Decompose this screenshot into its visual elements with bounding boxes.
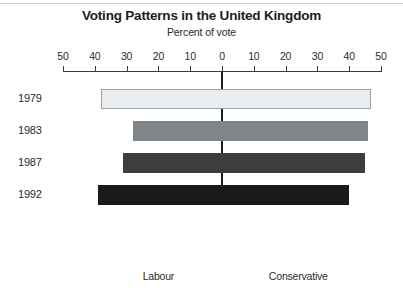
bar-1987 — [123, 153, 365, 173]
x-axis-tick-mark — [158, 66, 159, 72]
x-axis-tick-mark — [190, 66, 191, 72]
x-axis-tick-label: 20 — [271, 50, 301, 62]
x-axis-tick-label: 10 — [175, 50, 205, 62]
bar-1983 — [133, 121, 368, 141]
x-axis-tick-label: 10 — [239, 50, 269, 62]
year-label-1992: 1992 — [18, 188, 64, 200]
x-axis-tick-label: 0 — [207, 50, 237, 62]
x-axis-tick-mark — [286, 66, 287, 72]
x-axis-tick-label: 30 — [302, 50, 332, 62]
year-label-1979: 1979 — [18, 92, 64, 104]
year-label-1983: 1983 — [18, 124, 64, 136]
x-axis-tick-mark — [381, 66, 382, 72]
x-axis-tick-mark — [127, 66, 128, 72]
party-label-conservative: Conservative — [233, 270, 363, 282]
x-axis-tick-label: 50 — [366, 50, 396, 62]
chart-figure: Voting Patterns in the United Kingdom Pe… — [0, 0, 403, 297]
party-label-labour: Labour — [93, 270, 223, 282]
x-axis-tick-label: 50 — [48, 50, 78, 62]
x-axis-tick-label: 30 — [112, 50, 142, 62]
year-label-1987: 1987 — [18, 156, 64, 168]
x-axis-tick-mark — [222, 66, 223, 72]
x-axis-tick-mark — [349, 66, 350, 72]
bar-1992 — [98, 185, 349, 205]
x-axis-tick-label: 20 — [143, 50, 173, 62]
plot-area: 5040302010010203040501979198319871992Lab… — [0, 0, 403, 297]
x-axis-tick-mark — [95, 66, 96, 72]
bar-1979 — [101, 89, 371, 109]
x-axis-tick-mark — [254, 66, 255, 72]
x-axis-tick-label: 40 — [334, 50, 364, 62]
x-axis-tick-mark — [63, 66, 64, 72]
x-axis-tick-mark — [317, 66, 318, 72]
x-axis-tick-label: 40 — [80, 50, 110, 62]
